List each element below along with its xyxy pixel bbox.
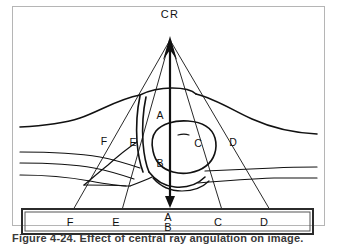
receptor-label-D: D <box>260 216 268 228</box>
diagram-canvas: CR A B C D E F F E A B C D <box>0 0 338 246</box>
label-structure-d: D <box>229 136 237 148</box>
label-structure-f: F <box>101 135 107 147</box>
projection-rays <box>73 40 270 210</box>
label-axis-a: A <box>156 109 163 121</box>
anatomy-contours <box>20 88 317 191</box>
ray-to-D <box>170 40 270 210</box>
receptor-label-C: C <box>214 216 222 228</box>
figure-root: CR A B C D E F F E A B C D Figure 4-24. … <box>0 0 338 246</box>
label-structure-c: C <box>194 137 202 149</box>
label-axis-b: B <box>156 157 163 169</box>
ray-to-C <box>170 40 222 210</box>
receptor-label-E: E <box>112 216 119 228</box>
label-structure-e: E <box>129 136 136 148</box>
receptor-label-F: F <box>67 216 74 228</box>
ray-to-F <box>73 40 170 210</box>
label-cr: CR <box>161 8 179 20</box>
figure-caption: Figure 4-24. Effect of central ray angul… <box>12 232 328 245</box>
